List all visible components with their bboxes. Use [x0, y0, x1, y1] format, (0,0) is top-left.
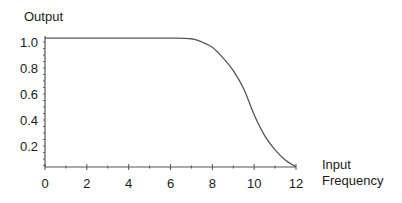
- x-tick-label: 12: [289, 176, 303, 191]
- y-axis-title: Output: [24, 9, 63, 24]
- y-tick-label: 0.8: [20, 61, 38, 76]
- x-tick-label: 6: [167, 176, 174, 191]
- x-tick-label: 10: [247, 176, 261, 191]
- x-tick-label: 2: [83, 176, 90, 191]
- y-tick-label: 0.4: [20, 113, 38, 128]
- axes: [43, 36, 296, 170]
- y-tick-label: 0.2: [20, 139, 38, 154]
- x-tick-label: 0: [41, 176, 48, 191]
- x-tick-label: 4: [125, 176, 132, 191]
- x-axis-title-line1: Input: [322, 157, 351, 172]
- output-curve: [45, 38, 296, 167]
- tick-labels: 0246810120.20.40.60.81.0: [20, 35, 303, 191]
- line-chart: Output Input Frequency 0246810120.20.40.…: [0, 0, 402, 203]
- x-tick-label: 8: [209, 176, 216, 191]
- y-tick-label: 1.0: [20, 35, 38, 50]
- x-axis-title-line2: Frequency: [322, 173, 384, 188]
- y-tick-label: 0.6: [20, 87, 38, 102]
